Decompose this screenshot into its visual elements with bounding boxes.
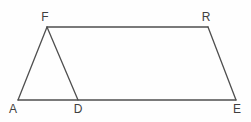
trapezoid-figure-svg: AFRED — [0, 0, 251, 122]
vertex-label-F: F — [41, 10, 48, 24]
edge-FD — [47, 27, 78, 100]
vertex-label-A: A — [9, 102, 17, 116]
vertex-label-R: R — [202, 10, 211, 24]
vertex-label-E: E — [233, 102, 241, 116]
edge-RE — [208, 27, 236, 100]
edge-AF — [18, 27, 47, 100]
geometry-diagram: AFRED — [0, 0, 251, 122]
vertex-label-D: D — [74, 102, 83, 116]
